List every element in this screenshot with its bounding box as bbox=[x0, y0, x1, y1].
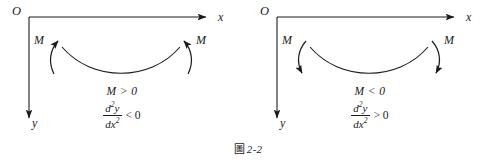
fraction-denominator: dx2 bbox=[351, 116, 369, 130]
beam-curve bbox=[310, 47, 428, 73]
denominator-exponent: 2 bbox=[116, 116, 120, 125]
fraction-denominator: dx2 bbox=[103, 116, 121, 130]
derivative-relation: < 0 bbox=[125, 108, 141, 122]
moment-condition: M > 0 bbox=[76, 84, 168, 98]
moment-condition: M < 0 bbox=[324, 84, 416, 98]
math-annotations-positive: M > 0 d2y dx2 < 0 bbox=[76, 84, 168, 130]
moment-label-left: M bbox=[34, 33, 44, 48]
figure-2-2: O x y M M M > 0 d2y dx2 < 0 bbox=[0, 0, 496, 164]
moment-arrow-left bbox=[51, 41, 58, 74]
math-annotations-negative: M < 0 d2y dx2 > 0 bbox=[324, 84, 416, 130]
diagram-negative-moment: O x y M M M < 0 d2y dx2 > 0 bbox=[248, 0, 496, 140]
derivative-relation: > 0 bbox=[373, 108, 389, 122]
fraction-numerator: d2y bbox=[351, 101, 369, 115]
x-axis-label: x bbox=[218, 10, 223, 25]
y-axis-label: y bbox=[280, 116, 285, 131]
derivative-fraction: d2y dx2 bbox=[351, 101, 369, 129]
second-derivative-expression: d2y dx2 > 0 bbox=[324, 101, 416, 129]
figure-caption: 圖2-2 bbox=[0, 140, 496, 156]
denominator-exponent: 2 bbox=[364, 116, 368, 125]
second-derivative-expression: d2y dx2 < 0 bbox=[76, 101, 168, 129]
moment-arrow-left bbox=[299, 41, 306, 73]
derivative-fraction: d2y dx2 bbox=[103, 101, 121, 129]
fraction-numerator: d2y bbox=[103, 101, 121, 115]
moment-label-right: M bbox=[444, 33, 454, 48]
x-axis-label: x bbox=[466, 10, 471, 25]
moment-arrow-right bbox=[184, 41, 191, 74]
caption-number: 2-2 bbox=[247, 143, 263, 155]
numerator-variable: y bbox=[363, 102, 368, 114]
y-axis-label: y bbox=[32, 116, 37, 131]
moment-label-right: M bbox=[196, 33, 206, 48]
diagram-positive-moment: O x y M M M > 0 d2y dx2 < 0 bbox=[0, 0, 248, 140]
moment-label-left: M bbox=[282, 33, 292, 48]
origin-label: O bbox=[260, 4, 269, 19]
beam-curve bbox=[62, 47, 180, 73]
numerator-variable: y bbox=[115, 102, 120, 114]
caption-label: 圖 bbox=[234, 143, 245, 156]
moment-arrow-right bbox=[432, 41, 439, 73]
denominator-dx: dx bbox=[105, 117, 115, 129]
denominator-dx: dx bbox=[353, 117, 363, 129]
origin-label: O bbox=[12, 4, 21, 19]
